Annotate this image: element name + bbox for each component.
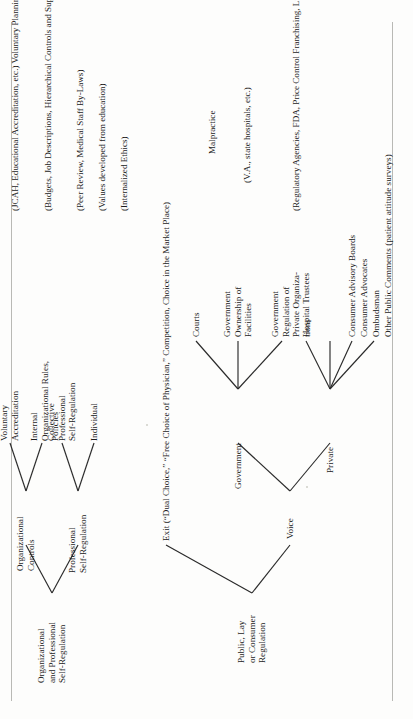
node-other-public-comments[interactable]: Other Public Comments (patient attitude …: [383, 57, 394, 337]
node-private[interactable]: Private: [325, 417, 336, 473]
link-voice-to-government: [238, 443, 290, 491]
node-government[interactable]: Government: [233, 417, 244, 489]
annotation-internal-organizational-rules: (Budgets, Job Descriptions, Hierarchical…: [43, 0, 54, 211]
node-hospital-trustees[interactable]: Hospital Trustees: [301, 217, 312, 337]
node-organizational-and-professional-self-regulation[interactable]: Organizational and Professional Self-Reg…: [36, 591, 68, 683]
node-voluntary-accreditation[interactable]: Voluntary Accreditation: [0, 349, 21, 441]
annotation-individual-ethics: (Internalized Ethics): [119, 11, 130, 211]
node-organizational-controls[interactable]: Organizational Controls: [15, 491, 36, 571]
node-collective-professional-self-regulation[interactable]: Collective Professional Self-Regulation: [46, 349, 78, 441]
node-ombudsman[interactable]: Ombudsman: [371, 177, 382, 337]
link-prof-selfreg-to-individual: [78, 443, 94, 491]
link-government-to-gov-regulation: [238, 341, 282, 389]
scanned-page: Organizational and Professional Self-Reg…: [0, 0, 413, 719]
rotated-figure-wrapper: Organizational and Professional Self-Reg…: [0, 0, 413, 719]
node-courts[interactable]: Courts: [191, 277, 202, 337]
annotation-government-ownership: (V.A., state hospitals, etc.): [242, 23, 253, 183]
node-consumer-advocates[interactable]: Consumer Advocates: [359, 177, 370, 337]
link-root2-to-exit: [166, 545, 252, 593]
link-org-controls-to-internal-rules: [26, 443, 42, 491]
annotation-individual-values: (Values developed from education): [97, 11, 108, 211]
annotation-voluntary-accreditation: (JCAH, Educational Accreditation, etc.) …: [10, 0, 21, 211]
node-government-ownership-of-facilities[interactable]: Government Ownership of Facilities: [222, 247, 254, 337]
link-private-to-consumer-advocates: [330, 341, 352, 389]
link-prof-selfreg-to-collective: [62, 443, 78, 491]
node-individual[interactable]: Individual: [89, 371, 100, 441]
annotation-government-regulation: (Regulatory Agencies, FDA, Price Control…: [291, 0, 302, 211]
node-exit[interactable]: Exit (“Dual Choice,” “Free Choice of Phy…: [161, 111, 172, 541]
annotation-collective-professional-self-regulation: (Peer Review, Medical Staff By-Laws): [75, 11, 86, 211]
link-private-to-ombudsman: [330, 341, 374, 389]
link-root2-to-voice: [252, 545, 290, 593]
annotation-courts-malpractice: Malpractice: [207, 34, 218, 154]
node-professional-self-regulation[interactable]: Professional Self-Regulation: [67, 489, 88, 573]
tree-diagram-canvas: Organizational and Professional Self-Reg…: [0, 0, 413, 719]
link-government-to-courts: [196, 341, 238, 389]
node-public-lay-or-consumer-regulation[interactable]: Public, Lay or Consumer Regulation: [236, 591, 268, 663]
link-private-to-hospital-trustees: [306, 341, 330, 389]
node-voice[interactable]: Voice: [285, 491, 296, 539]
node-consumer-advisory-boards[interactable]: Consumer Advisory Boards: [347, 177, 358, 337]
link-org-controls-to-voluntary-accreditation: [10, 443, 26, 491]
